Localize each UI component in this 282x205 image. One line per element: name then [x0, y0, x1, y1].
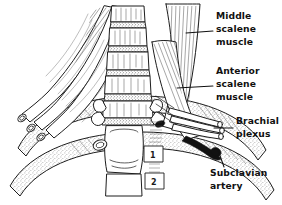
label-anterior-scalene-line-3: muscle: [216, 91, 253, 102]
intervertebral-disc: [104, 94, 152, 101]
label-middle-scalene-line-3: muscle: [216, 36, 253, 47]
rib-number-1-label: 1: [150, 151, 156, 160]
nerve-trunk-end: [218, 122, 223, 128]
intervertebral-disc: [106, 70, 150, 76]
label-middle-scalene-line-2: scalene: [216, 23, 256, 34]
vertebral-body: [111, 6, 145, 22]
intervertebral-disc: [108, 46, 148, 52]
label-brachial-plexus-line-2: plexus: [236, 128, 271, 139]
vertebral-body: [103, 101, 153, 118]
label-subclavian-artery-line-2: artery: [210, 180, 242, 191]
rib-number-1: 1: [144, 146, 163, 162]
vertebral-body: [109, 28, 147, 46]
label-anterior-scalene-line-2: scalene: [216, 78, 256, 89]
intervertebral-disc: [102, 118, 154, 125]
vertebral-body-lowest: [106, 174, 142, 196]
lower-vertebral-body: [105, 126, 144, 174]
vertebral-body: [107, 52, 149, 70]
nerve-trunk-end: [219, 134, 224, 140]
label-middle-scalene-line-1: Middle: [216, 10, 251, 21]
label-brachial-plexus-line-1: Brachial: [236, 115, 279, 126]
label-subclavian-artery-line-1: Subclavian: [210, 167, 267, 178]
rib-number-2-label: 2: [151, 178, 157, 187]
label-anterior-scalene-line-1: Anterior: [216, 65, 260, 76]
intervertebral-disc: [110, 22, 146, 28]
rib-number-2: 2: [145, 173, 164, 189]
vertebral-body: [105, 76, 151, 94]
anatomy-figure: 1 2 Middle scalene muscle: [0, 0, 282, 205]
label-middle-scalene: Middle scalene muscle: [216, 10, 256, 47]
